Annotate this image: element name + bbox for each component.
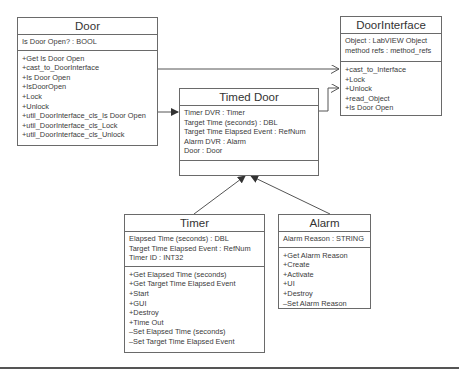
class-attributes: Object : LabVIEW Object method refs : me…: [341, 34, 441, 62]
method: –Set Alarm Reason: [283, 299, 366, 309]
class-methods: +cast_to_Interface +Lock +Unlock +read_O…: [341, 62, 441, 115]
class-methods-empty: [180, 161, 318, 166]
method: +Get Elapsed Time (seconds): [129, 270, 260, 280]
class-title: DoorInterface: [341, 17, 441, 34]
attribute: Elapsed Time (seconds) : DBL: [129, 234, 260, 244]
method: +Time Out: [129, 318, 260, 328]
attribute: Alarm DVR : Alarm: [184, 137, 314, 147]
page-divider: [0, 367, 459, 369]
attribute: Door : Door: [184, 146, 314, 156]
method: +Unlock: [22, 102, 153, 112]
method: +Unlock: [345, 84, 437, 94]
class-timer[interactable]: Timer Elapsed Time (seconds) : DBL Targe…: [124, 214, 265, 353]
attribute: Target Time (seconds) : DBL: [184, 118, 314, 128]
class-title: Timed Door: [180, 89, 318, 106]
method: +UI: [283, 279, 366, 289]
method: +Start: [129, 289, 260, 299]
method: +Create: [283, 260, 366, 270]
attribute: Target Time Elapsed Event : RefNum: [184, 127, 314, 137]
alarm-to-timeddoor-connector: [251, 176, 330, 214]
timer-to-timeddoor-connector: [194, 176, 245, 214]
class-title: Door: [18, 18, 157, 35]
method: +Destroy: [283, 289, 366, 299]
class-methods: +Get Elapsed Time (seconds) +Get Target …: [125, 267, 264, 349]
attribute: Timer ID : INT32: [129, 253, 260, 263]
class-doorinterface[interactable]: DoorInterface Object : LabVIEW Object me…: [340, 16, 442, 116]
class-door[interactable]: Door Is Door Open? : BOOL +Get Is Door O…: [17, 17, 158, 146]
method: +util_DoorInterface_cls_Lock: [22, 121, 153, 131]
method: +Activate: [283, 270, 366, 280]
method: +Lock: [22, 92, 153, 102]
class-methods: +Get Is Door Open +cast_to_DoorInterface…: [18, 51, 157, 142]
method: +GUI: [129, 299, 260, 309]
attribute: Alarm Reason : STRING: [283, 234, 366, 244]
method: +util_DoorInterface_cls_Unlock: [22, 130, 153, 140]
method: +util_DoorInterface_cls_Is Door Open: [22, 111, 153, 121]
method: +Get Alarm Reason: [283, 251, 366, 261]
class-title: Alarm: [279, 215, 370, 232]
method: +cast_to_DoorInterface: [22, 63, 153, 73]
timeddoor-to-doorinterface-connector: [318, 88, 339, 111]
class-timeddoor[interactable]: Timed Door Timer DVR : Timer Target Time…: [179, 88, 319, 176]
method: +cast_to_Interface: [345, 65, 437, 75]
class-methods: +Get Alarm Reason +Create +Activate +UI …: [279, 248, 370, 311]
method: +read_Object: [345, 94, 437, 104]
method: +Get Is Door Open: [22, 54, 153, 64]
attribute: Timer DVR : Timer: [184, 108, 314, 118]
method: –Set Elapsed Time (seconds): [129, 327, 260, 337]
class-attributes: Timer DVR : Timer Target Time (seconds) …: [180, 106, 318, 161]
attribute: Target Time Elapsed Event : RefNum: [129, 244, 260, 254]
class-attributes: Elapsed Time (seconds) : DBL Target Time…: [125, 232, 264, 267]
method: –Set Target Time Elapsed Event: [129, 337, 260, 347]
class-title: Timer: [125, 215, 264, 232]
attribute: Object : LabVIEW Object: [345, 36, 437, 46]
class-attributes: Is Door Open? : BOOL: [18, 35, 157, 51]
method: +Lock: [345, 75, 437, 85]
method: +Get Target Time Elapsed Event: [129, 279, 260, 289]
class-alarm[interactable]: Alarm Alarm Reason : STRING +Get Alarm R…: [278, 214, 371, 309]
method: +Is Door Open: [22, 73, 153, 83]
attribute: method refs : method_refs: [345, 46, 437, 56]
method: +Is Door Open: [345, 103, 437, 113]
attribute: Is Door Open? : BOOL: [22, 37, 153, 47]
method: +IsDoorOpen: [22, 82, 153, 92]
class-attributes: Alarm Reason : STRING: [279, 232, 370, 248]
method: +Destroy: [129, 308, 260, 318]
